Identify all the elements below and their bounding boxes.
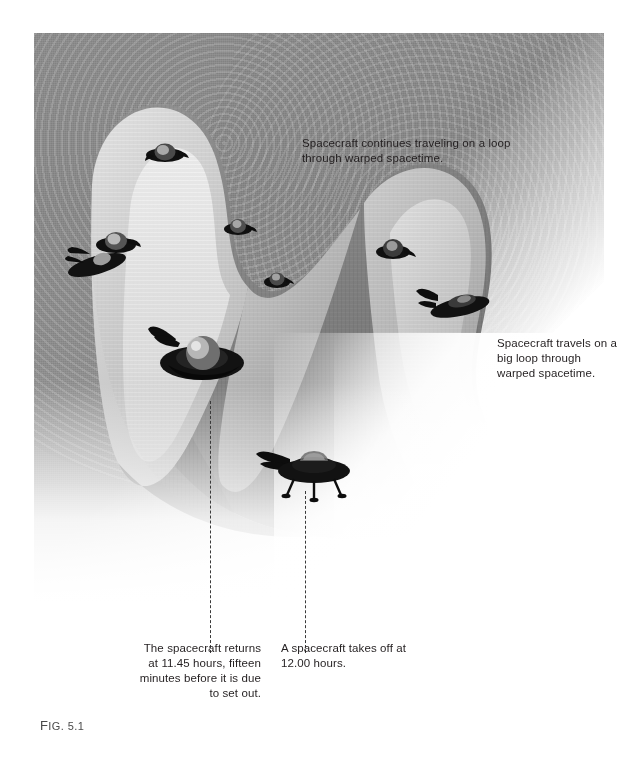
spacecraft-icon-landing — [256, 441, 368, 503]
dashed-guide-line-left — [210, 401, 211, 653]
caption-return-time: The spacecraft returns at 11.45 hours, f… — [133, 641, 261, 701]
spacecraft-icon-mid-low — [262, 263, 296, 295]
dashed-guide-line-right — [305, 491, 306, 653]
annotation-loop-continues: Spacecraft continues traveling on a loop… — [302, 136, 512, 166]
spacecraft-icon-center — [222, 209, 258, 243]
spacecraft-icon-right-saucer — [416, 281, 496, 327]
spacecraft-icon-large-left — [146, 319, 256, 391]
warped-spacetime-surface — [34, 33, 604, 633]
spacecraft-icon-left-edge — [64, 241, 130, 281]
caption-takeoff-time: A spacecraft takes off at 12.00 hours. — [281, 641, 421, 671]
spacecraft-icon-right-upper — [374, 229, 418, 269]
figure-number-rest: IG. 5.1 — [48, 720, 84, 732]
spacetime-sheet-body — [34, 33, 604, 633]
figure-illustration: Spacecraft continues traveling on a loop… — [34, 33, 604, 633]
annotation-big-loop: Spacecraft travels on a big loop through… — [497, 336, 617, 381]
spacecraft-icon-top-left — [144, 129, 190, 171]
figure-number-label: FIG. 5.1 — [40, 718, 84, 733]
